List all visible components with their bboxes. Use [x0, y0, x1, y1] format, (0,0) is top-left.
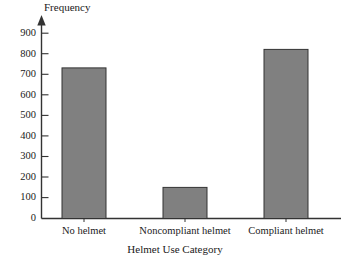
bar-compliant-helmet: [264, 49, 308, 218]
bar-series: [62, 49, 308, 218]
y-tick-label-300: 300: [2, 150, 36, 161]
y-tick-label-500: 500: [2, 109, 36, 120]
y-tick-label-200: 200: [2, 171, 36, 182]
bar-noncompliant-helmet: [163, 187, 207, 218]
x-tick-label-compliant-helmet: Compliant helmet: [226, 225, 346, 237]
y-tick-label-900: 900: [2, 27, 36, 38]
y-axis: [37, 15, 45, 219]
x-axis-title: Helmet Use Category: [0, 243, 350, 256]
y-axis-ticks: [42, 33, 49, 197]
bar-chart: Frequency: [0, 0, 350, 265]
y-tick-label-0: 0: [2, 212, 36, 223]
y-tick-label-600: 600: [2, 89, 36, 100]
y-tick-label-400: 400: [2, 130, 36, 141]
bar-no-helmet: [62, 68, 106, 219]
y-tick-label-700: 700: [2, 68, 36, 79]
y-tick-label-800: 800: [2, 48, 36, 59]
y-tick-label-100: 100: [2, 191, 36, 202]
